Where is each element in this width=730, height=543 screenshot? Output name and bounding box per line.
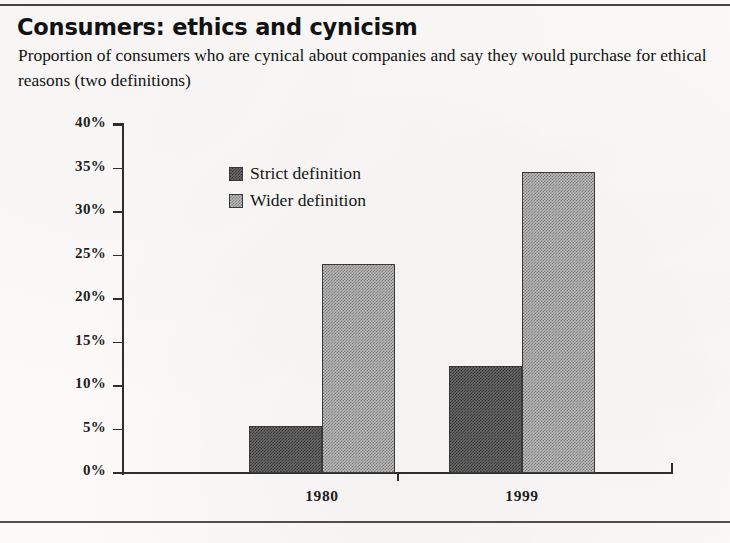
y-tick-label: 20%	[75, 288, 106, 305]
y-tick-label: 15%	[75, 332, 106, 349]
y-tick-label: 0%	[83, 462, 106, 479]
legend-swatch-strict-icon	[229, 167, 243, 181]
y-tick-label: 40%	[75, 114, 106, 131]
bar-1999-wider	[522, 172, 595, 473]
legend-item-strict: Strict definition	[229, 160, 366, 187]
y-tick-label: 10%	[75, 375, 106, 392]
bar-1980-wider	[322, 264, 395, 473]
legend-item-wider: Wider definition	[229, 187, 366, 214]
x-label-1999: 1999	[472, 487, 572, 505]
x-label-1980: 1980	[272, 487, 372, 505]
y-tick-label: 25%	[75, 245, 106, 262]
legend-label-wider: Wider definition	[250, 190, 366, 211]
x-tick-midpoint	[397, 472, 399, 481]
legend: Strict definition Wider definition	[229, 160, 366, 214]
bar-1999-strict	[449, 366, 522, 473]
y-tick-label: 5%	[83, 419, 106, 436]
bar-chart: 0%5%10%15%20%25%30%35%40% 19801999 Stric…	[0, 0, 730, 543]
legend-swatch-wider-icon	[229, 194, 243, 208]
bottom-divider	[0, 521, 730, 523]
y-tick-label: 35%	[75, 158, 106, 175]
y-tick-label: 30%	[75, 201, 106, 218]
bar-1980-strict	[249, 426, 322, 473]
figure-page: Consumers: ethics and cynicism Proportio…	[0, 0, 730, 543]
legend-label-strict: Strict definition	[250, 163, 361, 184]
plot-area	[122, 125, 672, 473]
